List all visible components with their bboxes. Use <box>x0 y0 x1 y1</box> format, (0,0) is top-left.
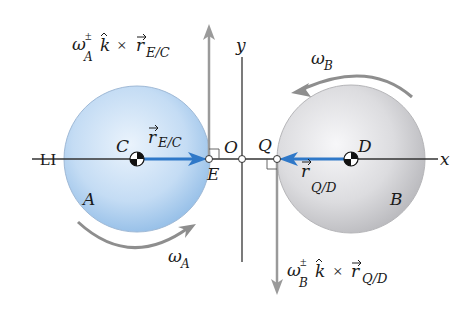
center-d-label: D <box>357 136 372 156</box>
velocity-q-label: ω ± B k × r Q/D <box>287 255 388 290</box>
point-e-label: E <box>206 164 220 184</box>
svg-text:×: × <box>333 262 343 281</box>
center-of-mass-d-icon <box>344 152 358 166</box>
svg-text:×: × <box>117 36 127 55</box>
center-of-mass-c-icon <box>130 152 144 166</box>
svg-text:±: ± <box>300 255 307 269</box>
svg-text:ω: ω <box>168 246 182 266</box>
point-e <box>206 156 213 163</box>
svg-text:±: ± <box>85 29 92 43</box>
svg-text:r: r <box>351 261 360 281</box>
center-c-label: C <box>116 136 129 156</box>
svg-text:B: B <box>323 59 333 73</box>
svg-text:k: k <box>100 35 110 55</box>
svg-text:k: k <box>315 261 325 281</box>
origin-o-label: O <box>224 137 238 157</box>
point-o <box>239 156 246 163</box>
y-axis-label: y <box>235 35 246 55</box>
svg-text:ω: ω <box>311 48 325 68</box>
omega-b-label: ω B <box>311 48 333 73</box>
velocity-e-label: ω ± A k × r E/C <box>72 29 170 64</box>
svg-text:A: A <box>180 257 190 271</box>
rolling-disks-diagram: LI C D E Q O x y A B r E/C r Q/D ω A ω B… <box>0 0 474 311</box>
svg-text:Q/D: Q/D <box>311 180 337 195</box>
point-q-label: Q <box>258 135 272 155</box>
svg-text:r: r <box>136 35 145 55</box>
line-li-label: LI <box>40 150 56 169</box>
rotation-arrowhead-a <box>178 224 196 238</box>
omega-a-label: ω A <box>168 246 190 271</box>
body-a-label: A <box>81 189 95 209</box>
point-q <box>274 156 281 163</box>
x-axis-label: x <box>440 149 450 169</box>
svg-text:A: A <box>83 50 93 64</box>
svg-text:Q/D: Q/D <box>362 271 388 286</box>
svg-text:B: B <box>298 276 308 290</box>
rotation-arrowhead-b <box>291 83 311 97</box>
body-b-label: B <box>389 189 403 209</box>
svg-text:E/C: E/C <box>145 45 170 60</box>
svg-text:E/C: E/C <box>157 135 182 150</box>
